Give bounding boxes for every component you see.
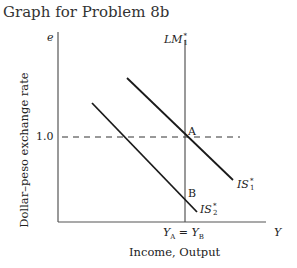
x-axis-symbol: Y	[274, 226, 281, 239]
point-a-label: A	[188, 125, 196, 138]
is2-curve-label: IS*2	[200, 203, 217, 217]
is1-curve	[127, 78, 233, 180]
x-axis-label: Income, Output	[129, 245, 220, 259]
is2-curve	[92, 103, 197, 212]
y-tick-label: 1.0	[36, 130, 54, 143]
y-axis-label: Dollar–peso exchange rate	[17, 72, 31, 227]
point-b-label: B	[188, 187, 196, 200]
is1-curve-label: IS*1	[237, 178, 254, 192]
x-tick-label: YA = YB	[163, 226, 204, 241]
y-axis-symbol: e	[47, 31, 54, 44]
lm-curve-label: LM*1	[164, 33, 188, 47]
